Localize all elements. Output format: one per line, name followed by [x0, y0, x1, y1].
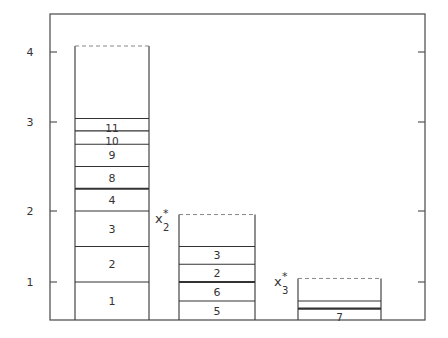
bin-side-label-sub: 3 [282, 285, 288, 296]
item-label: 8 [109, 172, 116, 185]
bin-side-label-sup: * [282, 270, 288, 283]
item-label: 4 [109, 194, 116, 207]
item-label: 9 [109, 149, 116, 162]
bin-1: 1234891011 [75, 46, 149, 320]
item-label: 2 [214, 267, 221, 280]
item-label: 6 [214, 286, 221, 299]
item-label: 11 [105, 122, 118, 134]
bin-side-label: x [274, 274, 282, 289]
bin-2: 5623x2* [155, 207, 255, 320]
item-label: 3 [109, 223, 116, 236]
bins: 12348910115623x2*7x3* [75, 46, 381, 323]
item-label: 7 [336, 311, 343, 323]
y-tick-label: 3 [27, 116, 34, 129]
bin-packing-chart: 1234 12348910115623x2*7x3* [0, 0, 448, 338]
item-label: 1 [109, 295, 116, 308]
y-axis: 1234 [27, 46, 426, 289]
bin-3: 7x3* [274, 270, 381, 323]
bin-side-label-sub: 2 [163, 222, 169, 233]
item-label: 5 [214, 305, 221, 318]
item-label: 10 [105, 135, 118, 147]
bin-side-label: x [155, 211, 163, 226]
item-label: 3 [214, 249, 221, 262]
y-tick-label: 1 [27, 276, 34, 289]
item-label: 2 [109, 258, 116, 271]
y-tick-label: 4 [27, 46, 34, 59]
y-tick-label: 2 [27, 205, 34, 218]
bin-side-label-sup: * [163, 207, 169, 220]
